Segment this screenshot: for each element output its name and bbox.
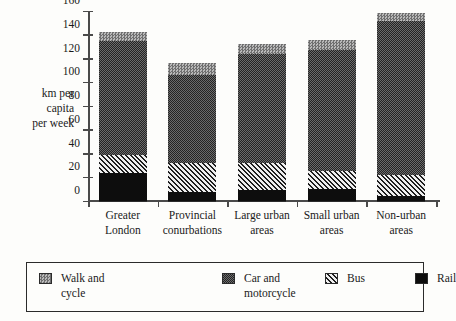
legend-label-line: cycle — [61, 286, 104, 301]
bar-segment-bus — [168, 163, 216, 192]
bar-segment-rail — [308, 189, 356, 201]
legend-label-rail: Rail — [437, 271, 456, 286]
x-label-line: conurbations — [158, 223, 228, 238]
bar-segment-bus — [377, 175, 425, 196]
plot-area: 020406080100120140160 — [88, 12, 436, 202]
y-tick-label-60: 60 — [69, 113, 81, 125]
x-label-small-urban-areas: Small urbanareas — [297, 208, 367, 238]
legend-label-line: Bus — [347, 271, 365, 286]
y-axis-title-line-2: capita — [0, 101, 74, 116]
bar-segment-walk — [168, 63, 216, 75]
legend-label-line: Rail — [437, 271, 456, 286]
x-axis-category-labels: GreaterLondonProvincialconurbationsLarge… — [88, 208, 436, 250]
bar-segment-rail — [99, 173, 147, 202]
y-tick-label-120: 120 — [63, 42, 80, 54]
bar-greater-london — [99, 33, 147, 202]
bar-segment-bus — [238, 163, 286, 190]
y-tick-label-140: 140 — [63, 18, 80, 30]
x-tick-5 — [436, 200, 438, 207]
x-label-line: London — [88, 223, 158, 238]
x-label-line: Large urban — [227, 208, 297, 223]
bar-segment-walk — [238, 44, 286, 54]
x-label-large-urban-areas: Large urbanareas — [227, 208, 297, 238]
x-label-greater-london: GreaterLondon — [88, 208, 158, 238]
bar-segment-bus — [99, 155, 147, 173]
y-tick-label-100: 100 — [63, 65, 80, 77]
legend-swatch-bus-icon — [325, 273, 338, 284]
bar-segment-car — [238, 54, 286, 163]
legend-item-rail[interactable]: Rail — [415, 271, 456, 286]
legend-label-line: Car and — [244, 271, 296, 286]
y-axis-title: km per capita per week — [0, 86, 74, 131]
legend-swatch-rail-icon — [415, 273, 428, 284]
bar-segment-walk — [308, 40, 356, 51]
x-label-line: areas — [366, 223, 436, 238]
bar-segment-car — [308, 50, 356, 171]
bar-segment-walk — [99, 32, 147, 40]
legend-label-line: Walk and — [61, 271, 104, 286]
x-label-line: Small urban — [297, 208, 367, 223]
legend-item-bus[interactable]: Bus — [325, 271, 365, 286]
bar-segment-rail — [377, 196, 425, 201]
chart-legend: Walk andcycleCar andmotorcycleBusRail — [26, 262, 424, 312]
y-tick-label-20: 20 — [69, 160, 81, 172]
legend-label-walk: Walk andcycle — [61, 271, 104, 301]
bar-segment-car — [168, 75, 216, 163]
x-label-provincial-conurbations: Provincialconurbations — [158, 208, 228, 238]
legend-label-line: motorcycle — [244, 286, 296, 301]
bar-provincial-conurbations — [168, 64, 216, 202]
y-tick-label-80: 80 — [69, 89, 81, 101]
bar-non-urban-areas — [377, 14, 425, 202]
bar-series-group — [88, 12, 436, 202]
y-axis-title-line-3: per week — [0, 116, 74, 131]
y-axis-title-line-1: km per — [0, 86, 74, 101]
legend-swatch-walk-icon — [39, 273, 52, 284]
x-label-line: Greater — [88, 208, 158, 223]
bar-small-urban-areas — [308, 41, 356, 203]
x-label-line: Non-urban — [366, 208, 436, 223]
x-label-line: areas — [297, 223, 367, 238]
legend-item-car[interactable]: Car andmotorcycle — [222, 271, 296, 301]
bar-segment-bus — [308, 171, 356, 189]
x-label-line: Provincial — [158, 208, 228, 223]
y-tick-label-40: 40 — [69, 137, 81, 149]
bar-large-urban-areas — [238, 45, 286, 202]
bar-segment-rail — [168, 192, 216, 202]
x-label-non-urban-areas: Non-urbanareas — [366, 208, 436, 238]
bar-segment-walk — [377, 13, 425, 20]
bar-segment-rail — [238, 190, 286, 201]
y-tick-label-160: 160 — [63, 0, 80, 6]
bar-segment-car — [99, 41, 147, 155]
legend-swatch-car-icon — [222, 273, 235, 284]
legend-label-car: Car andmotorcycle — [244, 271, 296, 301]
legend-item-walk[interactable]: Walk andcycle — [39, 271, 104, 301]
legend-label-bus: Bus — [347, 271, 365, 286]
y-tick-label-0: 0 — [74, 184, 80, 196]
x-label-line: areas — [227, 223, 297, 238]
bar-segment-car — [377, 21, 425, 175]
